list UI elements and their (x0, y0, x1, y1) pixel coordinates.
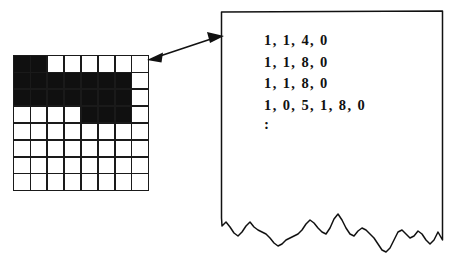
continuation-symbol: : (264, 116, 444, 133)
code-line: 1, 1, 8, 0 (264, 52, 444, 74)
code-text-block: 1, 1, 4, 0 1, 1, 8, 0 1, 1, 8, 0 1, 0, 5… (264, 30, 444, 133)
code-line: 1, 1, 8, 0 (264, 73, 444, 95)
code-line: 1, 1, 4, 0 (264, 30, 444, 52)
figure-canvas: 1, 1, 4, 0 1, 1, 8, 0 1, 1, 8, 0 1, 0, 5… (0, 0, 457, 270)
code-line: 1, 0, 5, 1, 8, 0 (264, 95, 444, 117)
